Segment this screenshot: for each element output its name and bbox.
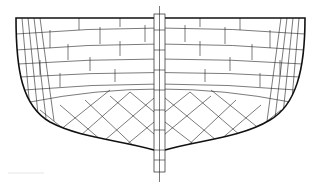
keel	[154, 6, 165, 182]
hull-section-svg	[0, 0, 317, 185]
caption-mark	[8, 172, 44, 174]
hull-drawing	[0, 0, 317, 185]
